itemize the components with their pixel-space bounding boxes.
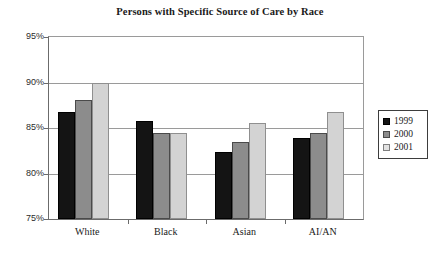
legend-label-2001: 2001 — [394, 142, 413, 152]
y-axis-label: 90% — [2, 77, 44, 87]
bar-asian-2000 — [232, 142, 249, 219]
x-axis-tick — [285, 219, 286, 224]
bar-ai-an-1999 — [293, 138, 310, 219]
bar-black-2001 — [170, 133, 187, 219]
legend-item-2001: 2001 — [383, 141, 424, 153]
bar-asian-1999 — [215, 152, 232, 219]
bar-white-2001 — [92, 83, 109, 220]
bar-asian-2001 — [249, 123, 266, 219]
bar-white-1999 — [58, 112, 75, 219]
legend-label-1999: 1999 — [394, 116, 413, 126]
bar-white-2000 — [75, 100, 92, 219]
legend-swatch-1999 — [383, 118, 390, 125]
x-axis-label-ai-an: AI/AN — [284, 226, 363, 237]
legend-swatch-2000 — [383, 131, 390, 138]
y-axis-label: 75% — [2, 213, 44, 223]
legend-label-2000: 2000 — [394, 129, 413, 139]
chart-title: Persons with Specific Source of Care by … — [60, 6, 380, 17]
bar-black-1999 — [136, 121, 153, 219]
bar-ai-an-2000 — [310, 133, 327, 219]
x-axis-label-black: Black — [127, 226, 206, 237]
legend-swatch-2001 — [383, 144, 390, 151]
y-axis-label: 85% — [2, 122, 44, 132]
bar-chart: Persons with Specific Source of Care by … — [0, 0, 436, 268]
bar-group — [128, 37, 207, 219]
x-axis-label-asian: Asian — [205, 226, 284, 237]
bar-group — [206, 37, 285, 219]
bar-ai-an-2001 — [327, 112, 344, 219]
x-axis-tick — [128, 219, 129, 224]
x-axis-label-white: White — [48, 226, 127, 237]
chart-legend: 199920002001 — [378, 110, 428, 159]
bar-black-2000 — [153, 133, 170, 219]
bar-group — [49, 37, 128, 219]
legend-item-2000: 2000 — [383, 128, 424, 140]
x-axis-tick — [206, 219, 207, 224]
bar-group — [285, 37, 364, 219]
plot-area — [48, 36, 364, 220]
y-axis-tick — [44, 219, 49, 220]
y-axis-label: 80% — [2, 168, 44, 178]
legend-item-1999: 1999 — [383, 115, 424, 127]
y-axis-label: 95% — [2, 31, 44, 41]
